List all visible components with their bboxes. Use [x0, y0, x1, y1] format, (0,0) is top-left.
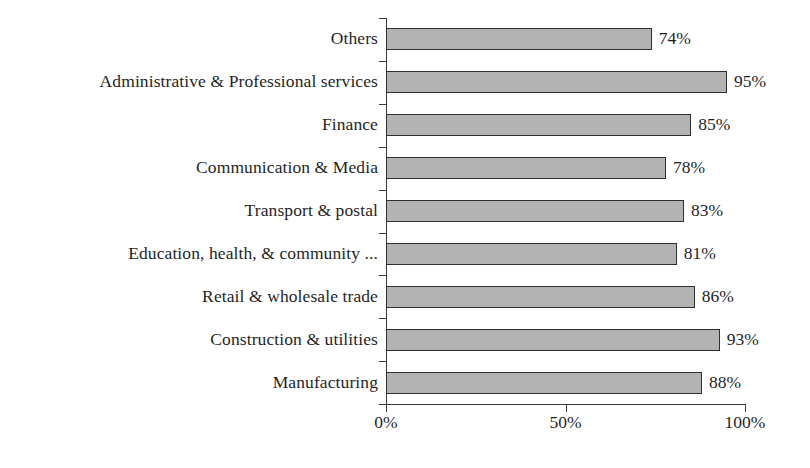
bar-value-label: 83% [691, 202, 723, 220]
bar-row: Manufacturing88% [0, 361, 810, 404]
bar-row: Construction & utilities93% [0, 318, 810, 361]
bar: 78% [386, 157, 666, 179]
bar-value-label: 85% [698, 116, 730, 134]
bar-value-label: 88% [709, 374, 741, 392]
category-label: Communication & Media [196, 159, 378, 177]
bar: 88% [386, 372, 702, 394]
bar-fill [386, 114, 691, 136]
bar: 81% [386, 243, 677, 265]
bar-row: Transport & postal83% [0, 190, 810, 233]
bar-value-label: 86% [702, 288, 734, 306]
y-axis-tick [379, 275, 387, 276]
bar-fill [386, 28, 652, 50]
category-label: Transport & postal [245, 202, 378, 220]
category-label: Education, health, & community ... [128, 245, 378, 263]
bar-row: Education, health, & community ...81% [0, 233, 810, 276]
bar-value-label: 78% [673, 159, 705, 177]
bar-fill [386, 71, 727, 93]
bar-fill [386, 200, 684, 222]
x-axis-tick [566, 404, 567, 412]
y-axis-tick [379, 318, 387, 319]
y-axis-tick [379, 233, 387, 234]
bar-row: Others74% [0, 18, 810, 61]
y-axis-tick [379, 147, 387, 148]
category-label: Manufacturing [273, 374, 378, 392]
bar-fill [386, 286, 695, 308]
bar-fill [386, 329, 720, 351]
bar: 74% [386, 28, 652, 50]
bar-fill [386, 157, 666, 179]
bar-fill [386, 243, 677, 265]
y-axis-tick [379, 361, 387, 362]
y-axis-tick [379, 104, 387, 105]
x-axis-tick-label: 0% [374, 414, 397, 432]
y-axis-tick [379, 190, 387, 191]
bar-value-label: 74% [659, 31, 691, 49]
category-label: Others [331, 31, 378, 49]
category-label: Construction & utilities [210, 331, 378, 349]
x-axis-tick [386, 404, 387, 412]
bar-value-label: 93% [727, 331, 759, 349]
x-axis-tick [745, 404, 746, 412]
bar-row: Administrative & Professional services95… [0, 61, 810, 104]
y-axis-tick [379, 61, 387, 62]
bar: 86% [386, 286, 695, 308]
category-label: Retail & wholesale trade [202, 288, 378, 306]
bar-row: Finance85% [0, 104, 810, 147]
bar-fill [386, 372, 702, 394]
x-axis-tick-label: 50% [549, 414, 581, 432]
x-axis-tick-label: 100% [725, 414, 766, 432]
category-label: Administrative & Professional services [100, 74, 378, 92]
bar-value-label: 95% [734, 74, 766, 92]
y-axis-tick [379, 18, 387, 19]
bar: 93% [386, 329, 720, 351]
bar-chart: Others74%Administrative & Professional s… [0, 0, 810, 468]
bar: 95% [386, 71, 727, 93]
bar-row: Retail & wholesale trade86% [0, 275, 810, 318]
bar: 85% [386, 114, 691, 136]
bar-row: Communication & Media78% [0, 147, 810, 190]
bar-value-label: 81% [684, 245, 716, 263]
category-label: Finance [322, 116, 378, 134]
bar: 83% [386, 200, 684, 222]
